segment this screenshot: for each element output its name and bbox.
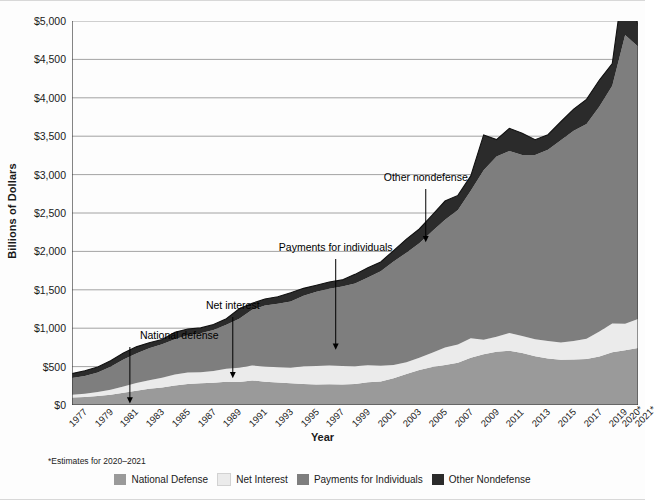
annotation-label: Payments for individuals (279, 241, 393, 253)
x-tick-label: 2005 (427, 406, 450, 429)
x-axis-title: Year (0, 431, 645, 443)
y-tick-label: $5,000 (12, 16, 66, 26)
legend-label: National Defense (131, 474, 208, 485)
y-tick-label: $500 (12, 362, 66, 372)
legend-label: Net Interest (236, 474, 288, 485)
legend-item[interactable]: Payments for Individuals (297, 474, 423, 485)
annotation-label: National defense (140, 329, 219, 341)
y-axis-tick-labels: $5,000$4,500$4,000$3,500$3,000$2,500$2,0… (8, 21, 66, 405)
legend-label: Payments for Individuals (314, 474, 423, 485)
chart-canvas: National defenseNet interestPayments for… (72, 21, 638, 405)
legend-item[interactable]: National Defense (114, 474, 208, 485)
x-tick-label: 2011 (504, 407, 526, 429)
x-tick-label: 1993 (272, 406, 295, 429)
x-tick-label: 2007 (452, 406, 475, 429)
x-tick-label: 1995 (298, 406, 321, 429)
y-tick-label: $2,000 (12, 246, 66, 256)
x-tick-label: 1991 (246, 406, 269, 429)
y-tick-label: $4,000 (12, 93, 66, 103)
y-tick-label: $0 (12, 400, 66, 410)
x-tick-label: 1985 (169, 406, 192, 429)
annotation-label: Other nondefense (384, 171, 468, 183)
x-tick-label: 1981 (118, 406, 141, 429)
plot-area: National defenseNet interestPayments for… (72, 21, 638, 405)
x-tick-label: 1983 (144, 406, 167, 429)
legend-swatch (297, 474, 309, 485)
x-tick-label: 1987 (195, 406, 218, 429)
y-tick-label: $2,500 (12, 208, 66, 218)
legend-swatch (432, 474, 444, 485)
x-tick-label: 1999 (349, 406, 372, 429)
x-tick-label: 1977 (66, 406, 89, 429)
y-tick-label: $1,000 (12, 323, 66, 333)
footnote: *Estimates for 2020–2021 (48, 456, 146, 466)
legend-swatch (217, 473, 231, 486)
x-tick-label: 2009 (478, 406, 501, 429)
legend-item[interactable]: Other Nondefense (432, 474, 531, 485)
y-tick-label: $1,500 (12, 285, 66, 295)
y-tick-label: $3,500 (12, 131, 66, 141)
x-tick-label: 2001 (375, 406, 398, 429)
x-tick-label: 1997 (324, 406, 347, 429)
chart-legend: National DefenseNet InterestPayments for… (0, 473, 645, 486)
legend-item[interactable]: Net Interest (217, 473, 288, 486)
x-tick-label: 2013 (529, 406, 552, 429)
annotation-label: Net interest (206, 299, 260, 311)
x-tick-label: 2003 (401, 406, 424, 429)
y-tick-label: $4,500 (12, 54, 66, 64)
x-tick-label: 2017 (581, 406, 604, 429)
x-tick-label: 1979 (92, 406, 115, 429)
legend-label: Other Nondefense (449, 474, 531, 485)
x-tick-label: 2015 (555, 406, 578, 429)
legend-swatch (114, 474, 126, 485)
y-tick-label: $3,000 (12, 170, 66, 180)
x-tick-label: 1989 (221, 406, 244, 429)
